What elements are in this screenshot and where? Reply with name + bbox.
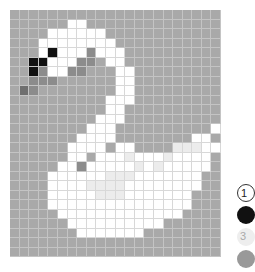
grid-cell[interactable] bbox=[87, 153, 97, 163]
grid-cell[interactable] bbox=[58, 181, 68, 191]
grid-cell[interactable] bbox=[106, 39, 116, 49]
grid-cell[interactable] bbox=[173, 238, 183, 248]
grid-cell[interactable] bbox=[58, 210, 68, 220]
grid-cell[interactable] bbox=[48, 67, 58, 77]
grid-cell[interactable] bbox=[211, 96, 221, 106]
grid-cell[interactable] bbox=[106, 134, 116, 144]
grid-cell[interactable] bbox=[144, 143, 154, 153]
grid-cell[interactable] bbox=[20, 229, 30, 239]
grid-cell[interactable] bbox=[173, 134, 183, 144]
grid-cell[interactable] bbox=[58, 29, 68, 39]
grid-cell[interactable] bbox=[96, 238, 106, 248]
grid-cell[interactable] bbox=[68, 86, 78, 96]
grid-cell[interactable] bbox=[96, 29, 106, 39]
grid-cell[interactable] bbox=[173, 172, 183, 182]
grid-cell[interactable] bbox=[39, 134, 49, 144]
grid-cell[interactable] bbox=[10, 248, 20, 258]
grid-cell[interactable] bbox=[202, 172, 212, 182]
grid-cell[interactable] bbox=[106, 248, 116, 258]
grid-cell[interactable] bbox=[183, 229, 193, 239]
grid-cell[interactable] bbox=[135, 96, 145, 106]
grid-cell[interactable] bbox=[154, 200, 164, 210]
grid-cell[interactable] bbox=[154, 181, 164, 191]
grid-cell[interactable] bbox=[154, 86, 164, 96]
grid-cell[interactable] bbox=[68, 58, 78, 68]
grid-cell[interactable] bbox=[87, 96, 97, 106]
grid-cell[interactable] bbox=[96, 58, 106, 68]
grid-cell[interactable] bbox=[106, 172, 116, 182]
grid-cell[interactable] bbox=[77, 48, 87, 58]
grid-cell[interactable] bbox=[106, 124, 116, 134]
grid-cell[interactable] bbox=[164, 20, 174, 30]
grid-cell[interactable] bbox=[202, 96, 212, 106]
grid-cell[interactable] bbox=[116, 115, 126, 125]
grid-cell[interactable] bbox=[77, 134, 87, 144]
grid-cell[interactable] bbox=[39, 96, 49, 106]
grid-cell[interactable] bbox=[106, 238, 116, 248]
grid-cell[interactable] bbox=[106, 48, 116, 58]
grid-cell[interactable] bbox=[192, 39, 202, 49]
grid-cell[interactable] bbox=[20, 96, 30, 106]
grid-cell[interactable] bbox=[125, 172, 135, 182]
grid-cell[interactable] bbox=[77, 162, 87, 172]
grid-cell[interactable] bbox=[58, 124, 68, 134]
grid-cell[interactable] bbox=[135, 67, 145, 77]
grid-cell[interactable] bbox=[173, 67, 183, 77]
grid-cell[interactable] bbox=[77, 39, 87, 49]
grid-cell[interactable] bbox=[144, 219, 154, 229]
grid-cell[interactable] bbox=[192, 48, 202, 58]
grid-cell[interactable] bbox=[173, 124, 183, 134]
grid-cell[interactable] bbox=[135, 29, 145, 39]
grid-cell[interactable] bbox=[87, 124, 97, 134]
grid-cell[interactable] bbox=[77, 29, 87, 39]
grid-cell[interactable] bbox=[77, 172, 87, 182]
grid-cell[interactable] bbox=[183, 86, 193, 96]
grid-cell[interactable] bbox=[135, 238, 145, 248]
grid-cell[interactable] bbox=[173, 48, 183, 58]
grid-cell[interactable] bbox=[68, 77, 78, 87]
grid-cell[interactable] bbox=[29, 134, 39, 144]
grid-cell[interactable] bbox=[164, 191, 174, 201]
grid-cell[interactable] bbox=[39, 191, 49, 201]
grid-cell[interactable] bbox=[183, 172, 193, 182]
grid-cell[interactable] bbox=[173, 29, 183, 39]
grid-cell[interactable] bbox=[20, 58, 30, 68]
grid-cell[interactable] bbox=[164, 210, 174, 220]
grid-cell[interactable] bbox=[116, 86, 126, 96]
grid-cell[interactable] bbox=[29, 67, 39, 77]
grid-cell[interactable] bbox=[154, 115, 164, 125]
grid-cell[interactable] bbox=[10, 172, 20, 182]
grid-cell[interactable] bbox=[96, 105, 106, 115]
grid-cell[interactable] bbox=[135, 200, 145, 210]
grid-cell[interactable] bbox=[164, 96, 174, 106]
grid-cell[interactable] bbox=[135, 58, 145, 68]
grid-cell[interactable] bbox=[211, 29, 221, 39]
grid-cell[interactable] bbox=[183, 143, 193, 153]
grid-cell[interactable] bbox=[68, 210, 78, 220]
grid-cell[interactable] bbox=[211, 115, 221, 125]
grid-cell[interactable] bbox=[211, 162, 221, 172]
grid-cell[interactable] bbox=[192, 134, 202, 144]
grid-cell[interactable] bbox=[135, 191, 145, 201]
grid-cell[interactable] bbox=[202, 162, 212, 172]
grid-cell[interactable] bbox=[48, 115, 58, 125]
grid-cell[interactable] bbox=[39, 200, 49, 210]
grid-cell[interactable] bbox=[116, 96, 126, 106]
grid-cell[interactable] bbox=[211, 248, 221, 258]
grid-cell[interactable] bbox=[183, 219, 193, 229]
grid-cell[interactable] bbox=[96, 124, 106, 134]
grid-cell[interactable] bbox=[48, 200, 58, 210]
grid-cell[interactable] bbox=[48, 96, 58, 106]
grid-cell[interactable] bbox=[154, 58, 164, 68]
grid-cell[interactable] bbox=[135, 48, 145, 58]
grid-cell[interactable] bbox=[202, 181, 212, 191]
grid-cell[interactable] bbox=[77, 200, 87, 210]
grid-cell[interactable] bbox=[77, 124, 87, 134]
grid-cell[interactable] bbox=[77, 86, 87, 96]
grid-cell[interactable] bbox=[164, 105, 174, 115]
grid-cell[interactable] bbox=[164, 162, 174, 172]
grid-cell[interactable] bbox=[87, 10, 97, 20]
grid-cell[interactable] bbox=[77, 96, 87, 106]
grid-cell[interactable] bbox=[116, 200, 126, 210]
grid-cell[interactable] bbox=[39, 86, 49, 96]
